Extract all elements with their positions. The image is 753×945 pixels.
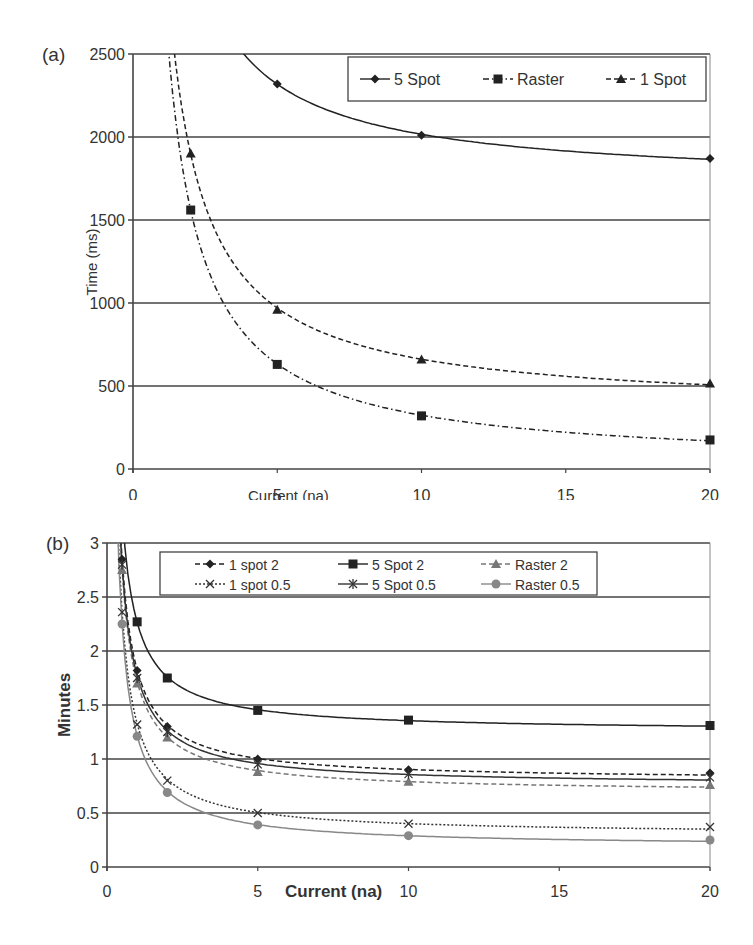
panel-label: (b): [46, 533, 69, 554]
y-tick-labels: 00.511.522.53: [77, 535, 99, 876]
svg-text:5: 5: [253, 883, 262, 900]
x-marker: [405, 820, 413, 828]
x-tick-labels: 05101520: [103, 883, 719, 900]
panel-label: (a): [42, 44, 65, 65]
svg-text:15: 15: [557, 487, 575, 500]
svg-text:0.5: 0.5: [77, 805, 99, 822]
square-marker: [417, 411, 426, 420]
x-axis-title: Current (na): [248, 487, 329, 500]
x-marker: [163, 777, 171, 785]
square-legend-icon: [349, 560, 358, 569]
legend-label: 5 Spot 2: [372, 557, 424, 573]
y-axis-title: Time (ms): [83, 229, 100, 296]
square-marker: [273, 360, 282, 369]
legend: 5 SpotRaster1 Spot: [348, 57, 706, 101]
circle-marker: [133, 732, 142, 741]
svg-text:2: 2: [90, 643, 99, 660]
chart-b-minutes-vs-current: 00.511.522.5305101520Current (na)Minutes…: [0, 500, 753, 945]
legend-label: Raster 2: [515, 557, 568, 573]
square-marker: [404, 716, 413, 725]
triangle-marker: [186, 149, 196, 158]
data-markers: [186, 79, 715, 444]
svg-text:3: 3: [90, 535, 99, 552]
legend-label: 5 Spot 0.5: [372, 577, 436, 593]
legend-label: 1 Spot: [640, 71, 687, 88]
legend-label: Raster: [517, 71, 565, 88]
chart-a-plot: 0500100015002000250005101520Current (na)…: [0, 0, 753, 500]
svg-text:1: 1: [90, 751, 99, 768]
svg-text:2.5: 2.5: [77, 589, 99, 606]
circle-marker: [404, 831, 413, 840]
circle-marker: [253, 820, 262, 829]
x-tick-labels: 05101520: [129, 487, 719, 500]
svg-text:20: 20: [701, 883, 719, 900]
svg-text:20: 20: [701, 487, 719, 500]
square-legend-icon: [494, 75, 503, 84]
diamond-marker: [417, 131, 426, 140]
svg-text:2000: 2000: [89, 129, 125, 146]
circle-marker: [163, 788, 172, 797]
circle-marker: [706, 836, 715, 845]
legend-label: 1 spot 2: [229, 557, 279, 573]
y-axis-title: Minutes: [55, 673, 74, 737]
svg-text:0: 0: [103, 883, 112, 900]
svg-text:15: 15: [550, 883, 568, 900]
series-line-1-spot-2: [116, 500, 710, 775]
gridlines: [128, 54, 710, 469]
series-group: [116, 500, 710, 841]
chart-a-time-vs-current: 0500100015002000250005101520Current (na)…: [0, 0, 753, 500]
svg-text:0: 0: [90, 859, 99, 876]
svg-text:1500: 1500: [89, 212, 125, 229]
x-axis-title: Current (na): [285, 882, 382, 901]
circle-marker: [118, 620, 127, 629]
square-marker: [133, 617, 142, 626]
svg-text:0: 0: [129, 487, 138, 500]
svg-text:2500: 2500: [89, 46, 125, 63]
square-marker: [706, 435, 715, 444]
legend-label: Raster 0.5: [515, 577, 580, 593]
square-marker: [186, 206, 195, 215]
star-marker: [163, 727, 171, 737]
series-line-raster-0-5: [116, 500, 710, 841]
legend-label: 5 Spot: [394, 71, 441, 88]
svg-text:1.5: 1.5: [77, 697, 99, 714]
svg-text:10: 10: [413, 487, 431, 500]
star-marker: [706, 772, 714, 782]
square-marker: [253, 706, 262, 715]
svg-text:1000: 1000: [89, 295, 125, 312]
triangle-marker: [272, 305, 282, 314]
svg-text:500: 500: [98, 378, 125, 395]
diamond-marker: [706, 154, 715, 163]
triangle-marker: [705, 379, 715, 388]
square-marker: [706, 721, 715, 730]
series-line-5-spot-2: [116, 500, 710, 726]
svg-text:10: 10: [400, 883, 418, 900]
series-line-5-spot-0-5: [116, 500, 710, 780]
legend-label: 1 spot 0.5: [229, 577, 291, 593]
svg-text:0: 0: [116, 461, 125, 478]
circle-legend-icon: [492, 580, 501, 589]
square-marker: [163, 674, 172, 683]
legend: 1 spot 25 Spot 2Raster 21 spot 0.55 Spot…: [160, 552, 597, 595]
chart-b-plot: 00.511.522.5305101520Current (na)Minutes…: [0, 500, 753, 945]
